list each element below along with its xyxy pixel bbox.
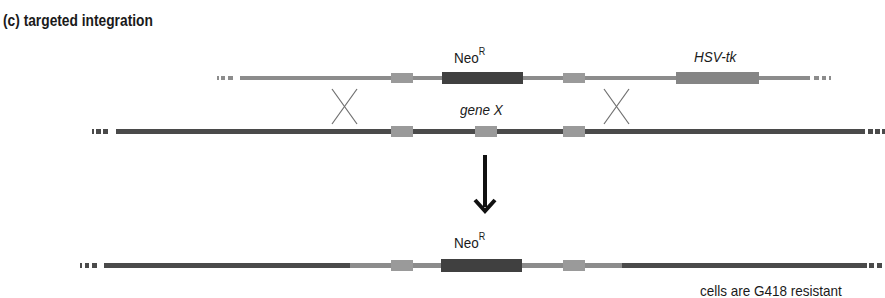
hsv-tk-label: HSV-tk bbox=[694, 48, 736, 65]
result-caption: cells are G418 resistant bbox=[700, 282, 842, 298]
arrow-down-icon bbox=[475, 155, 495, 211]
targeted-integration-diagram bbox=[0, 0, 885, 298]
homology-box-right bbox=[563, 260, 585, 271]
neo-superscript: R bbox=[479, 46, 486, 57]
hsv-tk-cassette bbox=[676, 72, 759, 84]
homology-box-left bbox=[391, 73, 413, 83]
crossover-left bbox=[332, 89, 357, 124]
genomic-locus bbox=[92, 126, 885, 137]
neo-cassette bbox=[441, 259, 522, 272]
homology-box-right bbox=[563, 73, 585, 83]
neo-text: Neo bbox=[454, 234, 479, 251]
neo-superscript: R bbox=[479, 231, 486, 242]
homology-box-left bbox=[391, 260, 413, 271]
neo-label-top: NeoR bbox=[454, 48, 485, 66]
crossover-right bbox=[604, 89, 629, 124]
neo-cassette bbox=[442, 72, 523, 84]
homology-box-right bbox=[563, 126, 585, 137]
homology-box-left bbox=[391, 126, 413, 137]
targeting-vector bbox=[217, 72, 831, 84]
gene-x-label: gene X bbox=[460, 101, 503, 118]
neo-label-bottom: NeoR bbox=[454, 233, 485, 251]
gene-x-exon bbox=[475, 126, 497, 137]
neo-text: Neo bbox=[454, 49, 479, 66]
recombined-locus bbox=[80, 259, 882, 272]
